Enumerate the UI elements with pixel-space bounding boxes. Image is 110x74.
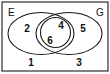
universe-frame-rectangle bbox=[2, 2, 108, 71]
region-number-3: 3 bbox=[76, 57, 82, 68]
region-number-4: 4 bbox=[58, 20, 64, 31]
region-number-5: 5 bbox=[80, 23, 86, 34]
region-number-1: 1 bbox=[28, 57, 34, 68]
venn-diagram-canvas: E G 1 2 3 4 5 6 bbox=[0, 0, 110, 74]
universe-label-E: E bbox=[8, 7, 15, 18]
venn-diagram-svg: E G 1 2 3 4 5 6 bbox=[0, 0, 110, 74]
region-number-2: 2 bbox=[24, 23, 30, 34]
set-label-G: G bbox=[96, 7, 104, 18]
region-number-6: 6 bbox=[47, 35, 53, 46]
